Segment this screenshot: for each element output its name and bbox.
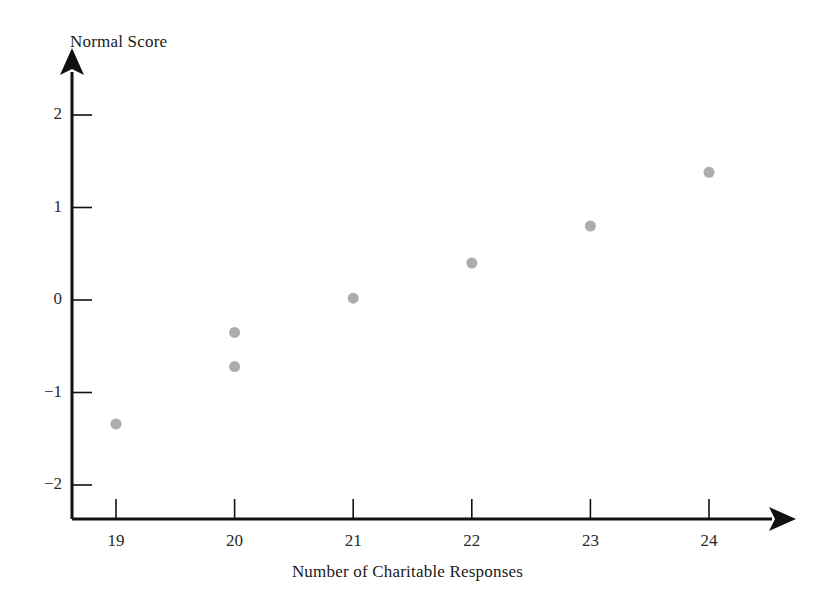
y-axis-tick-label: 2 [28,104,62,124]
axes [72,72,772,519]
data-point [704,167,715,178]
data-point [111,418,122,429]
y-axis-tick-label: 0 [28,289,62,309]
data-point [585,221,596,232]
x-axis-tick-label: 24 [689,531,729,551]
y-axis-tick-label: −2 [28,474,62,494]
data-point [466,258,477,269]
y-axis-tick-label: 1 [28,197,62,217]
data-point [229,361,240,372]
axis-ticks [72,115,709,519]
x-axis-tick-label: 23 [570,531,610,551]
y-axis-tick-label: −1 [28,382,62,402]
plot-area [0,0,815,612]
x-axis-tick-label: 20 [215,531,255,551]
data-points [111,167,715,430]
data-point [229,327,240,338]
data-point [348,293,359,304]
normal-probability-plot: Normal Score Number of Charitable Respon… [0,0,815,612]
x-axis-tick-label: 22 [452,531,492,551]
x-axis-tick-label: 19 [96,531,136,551]
x-axis-tick-label: 21 [333,531,373,551]
